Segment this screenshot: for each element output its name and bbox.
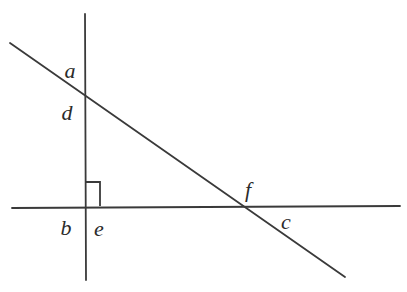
oblique-line: [10, 43, 345, 277]
geometry-figure: a d b e f c: [0, 0, 407, 292]
label-e: e: [94, 218, 104, 240]
vertical-line: [85, 14, 86, 280]
right-angle-square-icon: [85, 182, 100, 206]
label-b: b: [61, 217, 72, 239]
horizontal-line: [12, 206, 400, 208]
label-c: c: [281, 211, 291, 233]
label-f: f: [245, 179, 251, 201]
label-d: d: [62, 102, 73, 124]
figure-canvas: [0, 0, 407, 292]
label-a: a: [65, 60, 76, 82]
